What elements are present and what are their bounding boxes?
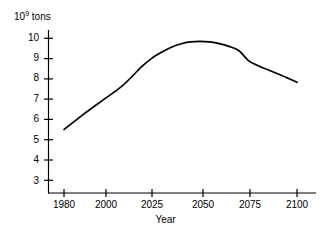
plot-area <box>0 0 331 235</box>
data-series-line <box>64 41 297 129</box>
chart-container: 109 tons 10 9 8 7 6 5 4 3 1980 2000 2025… <box>0 0 331 235</box>
